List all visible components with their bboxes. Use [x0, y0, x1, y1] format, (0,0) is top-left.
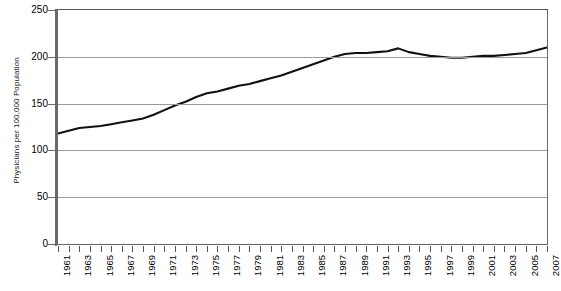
y-tick-mark-150: [48, 104, 55, 105]
gridline-150: [58, 104, 547, 105]
x-tick-mark-1962: [69, 246, 70, 252]
x-tick-mark-1979: [249, 246, 250, 252]
x-tick-label-1967: 1967: [126, 255, 136, 276]
gridline-50: [58, 197, 547, 198]
x-tick-label-1969: 1969: [147, 255, 157, 276]
x-tick-mark-1996: [430, 246, 431, 252]
x-tick-mark-1967: [122, 246, 123, 252]
x-tick-mark-1989: [356, 246, 357, 252]
x-tick-mark-2005: [526, 246, 527, 252]
x-tick-mark-1965: [101, 246, 102, 252]
x-tick-label-2007: 2007: [551, 255, 561, 276]
x-tick-mark-1964: [90, 246, 91, 252]
x-tick-label-1985: 1985: [317, 255, 327, 276]
x-tick-label-1965: 1965: [105, 255, 115, 276]
x-tick-mark-2006: [536, 246, 537, 252]
x-tick-mark-1974: [196, 246, 197, 252]
x-tick-mark-1961: [58, 246, 59, 252]
x-tick-label-2001: 2001: [487, 255, 497, 276]
x-tick-label-1975: 1975: [211, 255, 221, 276]
x-tick-mark-1981: [271, 246, 272, 252]
y-tick-mark-200: [48, 57, 55, 58]
x-tick-label-1995: 1995: [423, 255, 433, 276]
y-tick-mark-100: [48, 150, 55, 151]
x-tick-mark-1966: [111, 246, 112, 252]
x-tick-mark-1980: [260, 246, 261, 252]
x-tick-mark-1988: [345, 246, 346, 252]
x-tick-mark-1991: [377, 246, 378, 252]
x-tick-mark-1977: [228, 246, 229, 252]
data-series-line: [58, 10, 547, 244]
x-tick-mark-2002: [494, 246, 495, 252]
x-tick-mark-1971: [164, 246, 165, 252]
x-tick-label-1963: 1963: [83, 255, 93, 276]
y-tick-label-150: 150: [18, 99, 48, 109]
x-tick-mark-1975: [207, 246, 208, 252]
x-tick-mark-2001: [483, 246, 484, 252]
x-tick-label-2003: 2003: [508, 255, 518, 276]
x-tick-mark-1997: [441, 246, 442, 252]
x-tick-mark-1970: [154, 246, 155, 252]
x-tick-mark-1998: [451, 246, 452, 252]
x-tick-mark-1984: [303, 246, 304, 252]
y-tick-label-0: 0: [18, 239, 48, 249]
x-tick-mark-1999: [462, 246, 463, 252]
x-tick-mark-1978: [239, 246, 240, 252]
x-tick-mark-2007: [547, 246, 548, 252]
y-tick-label-50: 50: [18, 192, 48, 202]
x-tick-label-1991: 1991: [381, 255, 391, 276]
x-tick-label-1971: 1971: [168, 255, 178, 276]
x-tick-label-1983: 1983: [296, 255, 306, 276]
x-tick-label-1961: 1961: [62, 255, 72, 276]
y-tick-label-250: 250: [18, 5, 48, 15]
y-axis-tick-labels: 050100150200250: [18, 0, 48, 291]
x-tick-mark-1972: [175, 246, 176, 252]
x-tick-mark-2004: [515, 246, 516, 252]
x-tick-mark-1983: [292, 246, 293, 252]
x-tick-mark-1987: [334, 246, 335, 252]
y-tick-label-100: 100: [18, 145, 48, 155]
gridline-100: [58, 150, 547, 151]
x-tick-mark-1994: [409, 246, 410, 252]
x-tick-mark-1993: [398, 246, 399, 252]
x-tick-label-1973: 1973: [190, 255, 200, 276]
x-tick-mark-1986: [324, 246, 325, 252]
y-tick-mark-250: [48, 10, 55, 11]
x-tick-mark-1963: [79, 246, 80, 252]
x-tick-mark-2000: [473, 246, 474, 252]
x-tick-label-1977: 1977: [232, 255, 242, 276]
x-tick-label-1981: 1981: [275, 255, 285, 276]
x-tick-mark-1992: [388, 246, 389, 252]
y-tick-mark-50: [48, 197, 55, 198]
x-tick-label-1979: 1979: [253, 255, 263, 276]
x-tick-label-2005: 2005: [530, 255, 540, 276]
x-tick-label-1987: 1987: [338, 255, 348, 276]
x-tick-label-1997: 1997: [445, 255, 455, 276]
x-tick-mark-1982: [281, 246, 282, 252]
x-tick-mark-1973: [186, 246, 187, 252]
y-tick-label-200: 200: [18, 52, 48, 62]
x-tick-mark-2003: [504, 246, 505, 252]
x-tick-mark-1995: [419, 246, 420, 252]
x-tick-label-1999: 1999: [466, 255, 476, 276]
x-tick-mark-1985: [313, 246, 314, 252]
plot-area: [57, 9, 548, 245]
x-tick-mark-1976: [217, 246, 218, 252]
x-tick-mark-1990: [366, 246, 367, 252]
x-tick-label-1989: 1989: [360, 255, 370, 276]
y-tick-mark-0: [48, 244, 55, 245]
x-tick-mark-1969: [143, 246, 144, 252]
x-tick-label-1993: 1993: [402, 255, 412, 276]
gridline-200: [58, 57, 547, 58]
x-tick-mark-1968: [132, 246, 133, 252]
